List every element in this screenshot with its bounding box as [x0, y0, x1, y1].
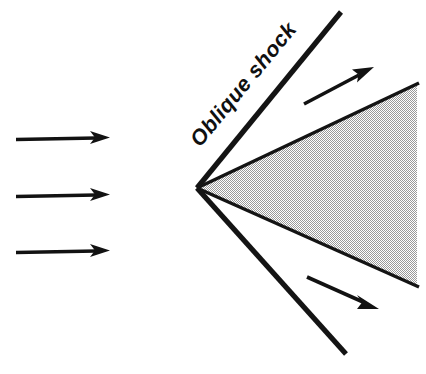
freestream-arrow-top-shaft	[16, 138, 96, 140]
deflected-arrow-upper-head	[352, 67, 374, 83]
freestream-arrow-middle-shaft	[16, 195, 96, 197]
deflected-arrow-lower-shaft	[307, 277, 363, 302]
deflected-arrow-upper	[304, 67, 374, 104]
deflected-arrow-upper-shaft	[304, 75, 359, 104]
deflected-arrow-lower	[307, 277, 379, 309]
freestream-arrow-bottom	[16, 244, 110, 257]
oblique-shock-diagram: Oblique shock	[0, 0, 426, 374]
freestream-arrows-group	[16, 131, 110, 257]
freestream-arrow-bottom-shaft	[16, 251, 96, 253]
freestream-arrow-top	[16, 131, 110, 144]
freestream-arrow-middle	[16, 188, 110, 201]
figure-canvas: Oblique shock	[0, 0, 426, 374]
